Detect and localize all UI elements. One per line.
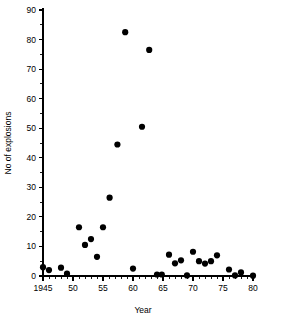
y-tick-label: 80 bbox=[27, 35, 37, 45]
data-point bbox=[139, 124, 145, 130]
x-tick-label: 60 bbox=[128, 283, 138, 293]
data-point bbox=[100, 224, 106, 230]
x-tick-label: 80 bbox=[248, 283, 258, 293]
data-point bbox=[196, 258, 202, 264]
data-point bbox=[46, 267, 52, 273]
data-point bbox=[238, 269, 244, 275]
data-point bbox=[76, 224, 82, 230]
y-tick-label: 20 bbox=[27, 212, 37, 222]
y-axis: 0102030405060708090 bbox=[27, 5, 43, 281]
data-point bbox=[232, 272, 238, 278]
y-tick-label: 40 bbox=[27, 153, 37, 163]
y-tick-label: 30 bbox=[27, 182, 37, 192]
data-point bbox=[88, 236, 94, 242]
x-tick-label: 1945 bbox=[34, 283, 53, 293]
data-point bbox=[146, 47, 152, 53]
scatter-chart-figure: 0102030405060708090 194550556065707580 Y… bbox=[0, 0, 287, 320]
data-point bbox=[130, 266, 136, 272]
data-point bbox=[250, 273, 256, 279]
data-point bbox=[208, 258, 214, 264]
data-point bbox=[64, 271, 70, 277]
data-point bbox=[178, 257, 184, 263]
data-point bbox=[226, 266, 232, 272]
x-axis-title: Year bbox=[134, 305, 151, 315]
data-point bbox=[58, 265, 64, 271]
data-point bbox=[82, 242, 88, 248]
data-point bbox=[114, 141, 120, 147]
data-point bbox=[94, 254, 100, 260]
data-point bbox=[159, 271, 165, 277]
x-tick-label: 70 bbox=[188, 283, 198, 293]
data-point bbox=[172, 260, 178, 266]
plot-canvas: 0102030405060708090 194550556065707580 Y… bbox=[0, 0, 287, 320]
x-tick-label: 75 bbox=[218, 283, 228, 293]
x-axis-tick-labels: 194550556065707580 bbox=[34, 283, 258, 293]
y-tick-label: 0 bbox=[31, 271, 36, 281]
y-tick-label: 50 bbox=[27, 123, 37, 133]
y-axis-title: No of explosions bbox=[3, 112, 13, 175]
data-point bbox=[184, 272, 190, 278]
y-tick-label: 60 bbox=[27, 94, 37, 104]
y-tick-label: 90 bbox=[27, 5, 37, 15]
data-point bbox=[40, 264, 46, 270]
x-axis-major-ticks bbox=[43, 276, 253, 281]
x-tick-label: 65 bbox=[158, 283, 168, 293]
data-point bbox=[190, 249, 196, 255]
data-points bbox=[40, 29, 256, 279]
y-axis-tick-labels: 0102030405060708090 bbox=[27, 5, 37, 281]
data-point bbox=[107, 195, 113, 201]
y-tick-label: 10 bbox=[27, 241, 37, 251]
y-tick-label: 70 bbox=[27, 64, 37, 74]
x-tick-label: 55 bbox=[98, 283, 108, 293]
data-point bbox=[122, 29, 128, 35]
x-axis: 194550556065707580 bbox=[34, 276, 258, 293]
x-tick-label: 50 bbox=[68, 283, 78, 293]
data-point bbox=[202, 260, 208, 266]
data-point bbox=[214, 252, 220, 258]
data-point bbox=[166, 252, 172, 258]
